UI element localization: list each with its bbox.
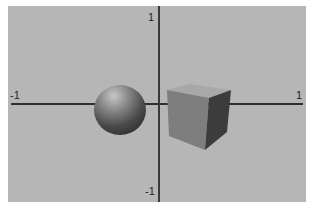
x-axis-max-label: 1 [296, 90, 302, 101]
y-axis [158, 6, 160, 202]
y-axis-max-label: 1 [148, 12, 154, 23]
x-axis [11, 103, 303, 105]
x-axis-min-label: -1 [10, 90, 20, 101]
cube-front-face [167, 90, 209, 150]
y-axis-min-label: -1 [145, 186, 155, 197]
sphere-object[interactable] [94, 85, 146, 135]
cube-object[interactable] [165, 84, 233, 152]
3d-viewport[interactable]: -1 1 1 -1 [8, 6, 306, 202]
